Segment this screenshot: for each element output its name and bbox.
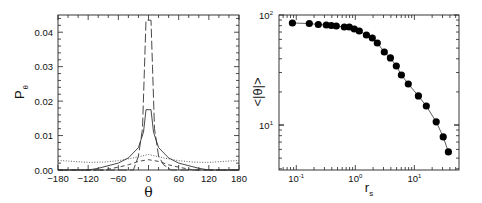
left-x-tick-label: 0: [146, 173, 151, 184]
left-x-tick-label: −120: [77, 173, 98, 184]
data-point-marker: [415, 92, 422, 99]
left-y-axis-title-sub: θ: [21, 84, 30, 89]
data-point-marker: [405, 80, 412, 87]
left-y-axis-title: Pθ: [12, 84, 30, 99]
right-x-axis-title: rs: [365, 180, 373, 198]
right-y-axis-title: <|θ|>: [250, 77, 265, 106]
left-x-tick-label: 120: [201, 173, 217, 184]
right-x-tick-label: 101: [407, 173, 422, 184]
right-series-markers: [289, 19, 452, 155]
left-y-tick-label: 0.03: [35, 61, 54, 72]
data-point-marker: [445, 148, 452, 155]
right-y-tick-label: 102: [259, 10, 274, 21]
left-x-axis-title: θ: [144, 184, 152, 200]
right-y-tick-label: 101: [259, 120, 274, 131]
series-solid: [58, 110, 239, 170]
left-y-tick-label: 0.02: [35, 96, 54, 107]
left-y-tick-label: 0.01: [35, 130, 54, 141]
left-plot-frame: [58, 15, 239, 170]
left-axis-ticks: [58, 15, 239, 170]
figure: −180−120−60060120180 0.000.010.020.030.0…: [0, 0, 482, 203]
right-x-tick-label: 10-1: [288, 173, 305, 184]
right-x-tick-labels: 10-1100101: [288, 173, 422, 184]
series-long-dashed: [58, 20, 239, 170]
data-point-marker: [387, 54, 394, 61]
left-y-tick-labels: 0.000.010.020.030.04: [35, 27, 54, 176]
data-point-marker: [433, 118, 440, 125]
svg-text:Pθ: Pθ: [12, 84, 30, 99]
data-point-marker: [374, 39, 381, 46]
data-point-marker: [381, 48, 388, 55]
data-point-marker: [333, 22, 340, 29]
data-point-marker: [393, 62, 400, 69]
data-point-marker: [289, 19, 296, 26]
data-point-marker: [356, 27, 363, 34]
left-series-lines: [58, 20, 239, 170]
left-y-axis-title-main: P: [12, 90, 27, 99]
data-point-marker: [440, 133, 447, 140]
data-point-marker: [423, 102, 430, 109]
right-y-tick-labels: 101102: [259, 10, 274, 131]
right-series-line: [292, 23, 448, 152]
left-x-tick-label: 180: [231, 173, 247, 184]
left-x-tick-label: −60: [110, 173, 126, 184]
series-line: [292, 23, 448, 152]
svg-text:<|θ|>: <|θ|>: [250, 77, 265, 106]
data-point-marker: [315, 21, 322, 28]
data-point-marker: [306, 20, 313, 27]
left-chart-panel: −180−120−60060120180 0.000.010.020.030.0…: [12, 15, 247, 200]
right-x-tick-label: 100: [348, 173, 363, 184]
left-y-tick-label: 0.00: [35, 165, 54, 176]
series-dotted: [58, 155, 239, 163]
left-y-tick-label: 0.04: [35, 27, 54, 38]
left-x-tick-label: 60: [173, 173, 184, 184]
left-x-tick-labels: −180−120−60060120180: [47, 173, 247, 184]
data-point-marker: [398, 71, 405, 78]
right-chart-panel: 10-1100101 101102 rs <|θ|>: [250, 10, 459, 199]
